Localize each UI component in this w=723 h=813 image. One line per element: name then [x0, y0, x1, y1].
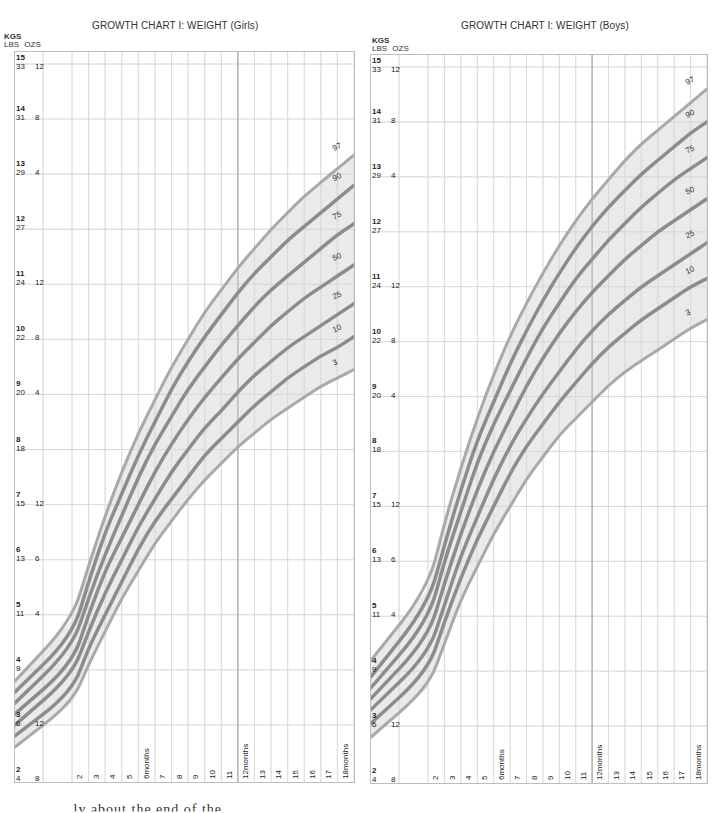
percentile-label: 97 — [684, 75, 696, 87]
lbs-value: 29 — [372, 171, 391, 180]
kg-value: 2 — [372, 766, 395, 775]
ozs-value: 6 — [35, 554, 39, 563]
kg-value: 12 — [16, 214, 35, 223]
y-axis-label: 153312 — [16, 53, 44, 71]
ozs-value: 4 — [391, 610, 395, 619]
y-axis-label: 49 — [16, 655, 35, 673]
x-axis-label: 7 — [513, 776, 522, 780]
x-axis-label: 3 — [448, 776, 457, 780]
lbs-value: 18 — [16, 444, 35, 453]
kg-value: 7 — [16, 490, 44, 499]
x-axis-label: 17 — [324, 770, 333, 779]
kg-value: 3 — [372, 711, 400, 720]
ozs-label: OZS — [24, 40, 40, 49]
x-axis-label: 5 — [125, 775, 134, 779]
ozs-value: 8 — [391, 336, 395, 345]
kg-value: 8 — [372, 436, 391, 445]
growth-curves: 9790755025103 — [371, 55, 707, 783]
ozs-value: 4 — [391, 391, 395, 400]
x-axis-label: 2 — [431, 776, 440, 780]
ozs-value: 12 — [391, 500, 400, 509]
x-axis-label: 8 — [175, 775, 184, 779]
lbs-value: 31 — [16, 113, 35, 122]
ozs-value: 6 — [391, 555, 395, 564]
y-axis-label: 14318 — [372, 107, 395, 125]
x-axis-label: 18months — [694, 745, 703, 780]
percentile-label: 97 — [331, 141, 343, 153]
kg-value: 4 — [372, 656, 391, 665]
kg-value: 5 — [16, 600, 39, 609]
y-axis-label: 49 — [372, 656, 391, 674]
kg-value: 6 — [16, 545, 39, 554]
lbs-value: 31 — [372, 116, 391, 125]
lbs-value: 22 — [372, 336, 391, 345]
y-axis-label: 13294 — [16, 159, 39, 177]
kg-value: 7 — [372, 491, 400, 500]
ozs-value: 12 — [35, 499, 44, 508]
x-axis-label: 4 — [108, 775, 117, 779]
x-axis-label: 16 — [661, 771, 670, 780]
chart-title: GROWTH CHART I: WEIGHT (Boys) — [461, 20, 629, 31]
lbs-value: 24 — [372, 281, 391, 290]
kg-value: 15 — [16, 53, 44, 62]
x-axis-label: 6months — [142, 748, 151, 779]
y-axis-label: 248 — [372, 766, 395, 784]
x-axis-label: 15 — [645, 771, 654, 780]
kg-value: 2 — [16, 765, 39, 774]
y-axis-label: 1227 — [372, 217, 391, 235]
x-axis-label: 13 — [258, 770, 267, 779]
x-axis-label: 8 — [530, 776, 539, 780]
y-axis-label: 9204 — [372, 382, 395, 400]
kg-value: 6 — [372, 546, 395, 555]
y-axis-label: 818 — [16, 435, 35, 453]
lbs-value: 33 — [16, 62, 35, 71]
lbs-value: 15 — [16, 499, 35, 508]
kg-value: 11 — [372, 272, 400, 281]
ozs-value: 8 — [35, 113, 39, 122]
x-axis-label: 14 — [274, 770, 283, 779]
lbs-label: LBS — [372, 44, 387, 53]
kg-value: 12 — [372, 217, 391, 226]
lbs-value: 18 — [372, 445, 391, 454]
x-axis-label: 4 — [464, 776, 473, 780]
lbs-value: 15 — [372, 500, 391, 509]
lbs-value: 20 — [16, 388, 35, 397]
ozs-value: 8 — [391, 775, 395, 784]
x-axis-label: 5 — [480, 776, 489, 780]
x-axis-label: 9 — [546, 776, 555, 780]
ozs-value: 4 — [35, 168, 39, 177]
lbs-value: 13 — [372, 555, 391, 564]
lbs-value: 9 — [372, 665, 391, 674]
lbs-value: 11 — [16, 609, 35, 618]
x-axis-label: 11 — [579, 772, 588, 780]
y-axis-label: 248 — [16, 765, 39, 783]
y-axis-label: 14318 — [16, 104, 39, 122]
ozs-value: 12 — [391, 65, 400, 74]
y-axis-label: 9204 — [16, 379, 39, 397]
kg-value: 4 — [16, 655, 35, 664]
lbs-value: 4 — [372, 775, 391, 784]
lbs-value: 22 — [16, 333, 35, 342]
lbs-value: 6 — [372, 720, 391, 729]
kg-value: 5 — [372, 601, 395, 610]
y-axis-label: 10228 — [372, 327, 395, 345]
x-axis-label: 16 — [308, 770, 317, 779]
lbs-label: LBS — [4, 40, 19, 49]
axis-header: KGS LBS OZS — [4, 33, 41, 49]
y-axis-label: 10228 — [16, 324, 39, 342]
ozs-value: 12 — [35, 62, 44, 71]
plot-area: 9790755025103153312143181329412271124121… — [370, 54, 708, 784]
y-axis-label: 3612 — [372, 711, 400, 729]
y-axis-label: 6136 — [372, 546, 395, 564]
y-axis-label: 5114 — [372, 601, 395, 619]
kg-value: 9 — [372, 382, 395, 391]
x-axis-label: 11 — [225, 771, 234, 779]
kg-value: 3 — [16, 710, 44, 719]
ozs-value: 12 — [391, 720, 400, 729]
plot-area: 9790755025103153312143181329412271124121… — [14, 51, 355, 783]
ozs-value: 4 — [391, 171, 395, 180]
y-axis-label: 71512 — [16, 490, 44, 508]
x-axis-label: 18months — [341, 744, 350, 779]
lbs-value: 27 — [372, 226, 391, 235]
lbs-value: 24 — [16, 278, 35, 287]
